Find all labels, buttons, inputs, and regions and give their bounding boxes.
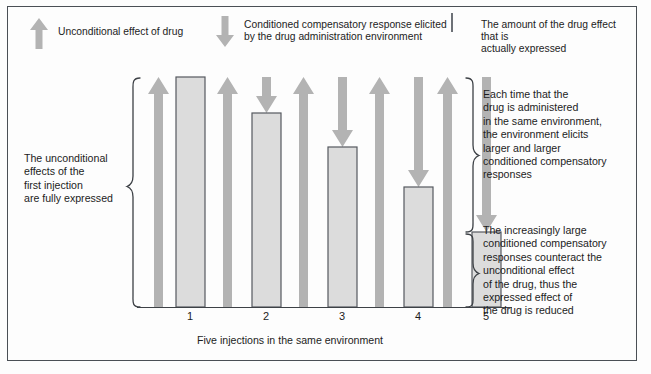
down-arrow-icon [214, 14, 236, 48]
legend-label-expressed-effect: The amount of the drug effect that is ac… [481, 14, 634, 54]
up-arrow-icon [28, 16, 50, 50]
x-axis-caption: Five injections in the same environment [120, 334, 460, 346]
x-tick-label-2: 2 [255, 310, 277, 322]
legend-item-expressed-effect: The amount of the drug effect that is ac… [451, 14, 634, 54]
legend-label-conditioned-response: Conditioned compensatory response elicit… [244, 14, 447, 43]
stimulus-figure: Unconditional effect of drug Conditioned… [0, 0, 651, 374]
legend-item-conditioned-response: Conditioned compensatory response elicit… [214, 14, 447, 48]
x-tick-label-4: 4 [407, 310, 429, 322]
bar-swatch-icon [451, 14, 473, 48]
annotation-left: The unconditional effects of the first i… [24, 152, 144, 206]
legend-label-unconditional-effect: Unconditional effect of drug [58, 16, 183, 38]
legend-item-unconditional-effect: Unconditional effect of drug [28, 16, 183, 50]
annotation-right-bottom: The increasingly large conditioned compe… [483, 224, 635, 318]
x-tick-label-1: 1 [179, 310, 201, 322]
annotation-right-top: Each time that the drug is administered … [483, 88, 635, 182]
legend: Unconditional effect of drug Conditioned… [14, 12, 634, 60]
x-tick-label-3: 3 [331, 310, 353, 322]
